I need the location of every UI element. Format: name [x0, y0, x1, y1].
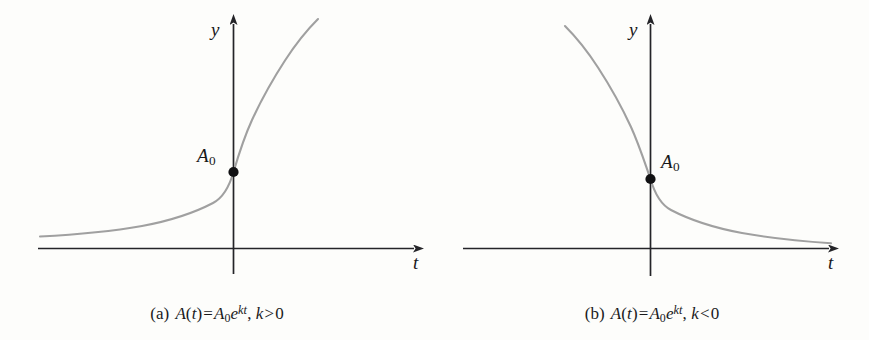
x-axis-label: t: [828, 253, 833, 272]
caption-tag-a: (a): [150, 304, 169, 323]
intercept-label-subscript: 0: [209, 153, 216, 168]
panel-exponential-growth: y t A0 (a)A(t)=A0ekt, k>0: [0, 0, 434, 340]
caption-exp-sup-a: kt: [238, 302, 247, 316]
caption-paren-close-a: ): [196, 304, 202, 323]
plot-area-decay: [435, 0, 869, 290]
y-axis-label: y: [211, 20, 219, 39]
x-axis-label: t: [413, 253, 418, 272]
caption-growth: (a)A(t)=A0ekt, k>0: [0, 302, 434, 326]
intercept-label: A0: [197, 146, 216, 168]
caption-comma-a: ,: [247, 304, 251, 323]
caption-formula-a: A(t)=A0ekt, k>0: [175, 304, 283, 323]
caption-param-b: k: [691, 304, 699, 323]
caption-fn-name-b: A: [611, 304, 621, 323]
caption-relation-a: >: [265, 304, 275, 323]
figure-root: y t A0 (a)A(t)=A0ekt, k>0: [0, 0, 869, 340]
exponential-growth-curve: [40, 19, 318, 237]
intercept-label-text: A: [197, 145, 209, 166]
panel-exponential-decay: y t A0 (b)A(t)=A0ekt, k<0: [435, 0, 869, 340]
intercept-point-marker: [228, 167, 238, 177]
caption-threshold-b: 0: [711, 304, 720, 323]
caption-tag-b: (b): [585, 304, 605, 323]
caption-exp-base-b: e: [666, 304, 674, 323]
exponential-decay-curve: [565, 26, 831, 243]
intercept-label: A0: [661, 152, 680, 174]
caption-comma-b: ,: [683, 304, 687, 323]
caption-param-a: k: [256, 304, 264, 323]
caption-exp-base-a: e: [230, 304, 238, 323]
y-axis-label: y: [629, 20, 637, 39]
caption-equals-a: =: [203, 304, 213, 323]
caption-amplitude-a: A: [214, 304, 224, 323]
caption-amplitude-b: A: [649, 304, 659, 323]
plot-area-growth: [0, 0, 434, 290]
intercept-label-text: A: [661, 151, 673, 172]
intercept-point-marker: [645, 174, 655, 184]
caption-paren-close-b: ): [632, 304, 638, 323]
caption-decay: (b)A(t)=A0ekt, k<0: [435, 302, 869, 326]
caption-equals-b: =: [639, 304, 649, 323]
caption-fn-name-a: A: [175, 304, 185, 323]
caption-formula-b: A(t)=A0ekt, k<0: [611, 304, 719, 323]
caption-threshold-a: 0: [275, 304, 284, 323]
caption-exp-sup-b: kt: [674, 302, 683, 316]
intercept-label-subscript: 0: [673, 159, 680, 174]
caption-relation-b: <: [700, 304, 710, 323]
